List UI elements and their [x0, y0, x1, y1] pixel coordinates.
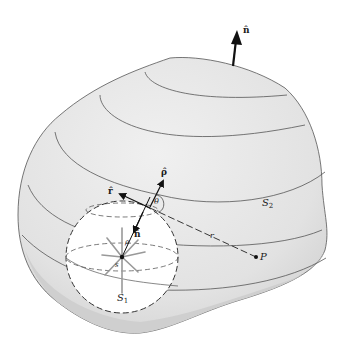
label-r-hat: r̂: [108, 187, 113, 196]
point-P: [254, 255, 258, 259]
label-r: r: [210, 232, 214, 240]
label-S2-letter: S: [262, 197, 269, 208]
label-theta: θ: [154, 198, 159, 206]
outer-surface-S2: [18, 57, 327, 333]
label-S1-letter: S: [117, 292, 124, 303]
gauss-law-diagram: n̂ ρ̂ r̂ θ n̂ ρ s r P S1 S2: [0, 0, 356, 361]
label-S2-subscript: 2: [269, 202, 273, 210]
diagram-canvas: [0, 0, 356, 361]
label-n-outer: n̂: [243, 26, 250, 35]
label-S1: S1: [117, 293, 128, 305]
label-s: s: [115, 262, 119, 269]
label-S2: S2: [262, 198, 273, 210]
label-rho-hat: ρ̂: [161, 168, 167, 177]
label-S1-subscript: 1: [124, 297, 128, 305]
label-rho: ρ: [125, 239, 129, 246]
label-P: P: [260, 252, 267, 262]
label-n-inner: n̂: [134, 230, 141, 239]
n-outer-arrowhead: [231, 30, 242, 45]
